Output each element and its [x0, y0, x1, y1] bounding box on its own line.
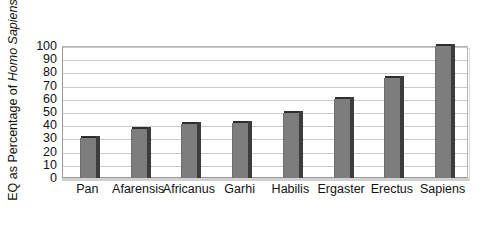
bar-top-face	[182, 122, 197, 124]
y-tick-label: 0	[27, 172, 57, 184]
bar	[232, 123, 248, 178]
x-tick-label: Erectus	[371, 182, 413, 197]
y-tick-label: 90	[27, 53, 57, 65]
y-axis-title-italic: Homo Sapiens	[6, 0, 20, 81]
x-tick-label: Habilis	[272, 182, 310, 197]
x-tick-label: Ergaster	[318, 182, 365, 197]
bar	[334, 99, 350, 178]
y-tick-label: 70	[27, 80, 57, 92]
bar	[80, 138, 96, 178]
bar-side-face	[400, 76, 404, 178]
x-tick-label: Garhi	[224, 182, 255, 197]
bar-top-face	[132, 127, 147, 129]
y-tick-label: 80	[27, 66, 57, 78]
x-tick-label: Afarensis	[112, 182, 164, 197]
y-axis-tick-labels: 1009080706050403020100	[26, 40, 60, 184]
bar-top-face	[233, 121, 248, 123]
bar-side-face	[350, 97, 354, 178]
bar	[131, 129, 147, 178]
bar	[181, 124, 197, 178]
y-axis-title: EQ as Percentage of Homo Sapiens	[0, 0, 26, 200]
y-tick-label: 10	[27, 159, 57, 171]
y-tick-label: 100	[27, 40, 57, 52]
y-axis-title-plain: EQ as Percentage of	[6, 81, 20, 201]
y-tick-label: 60	[27, 93, 57, 105]
bar-side-face	[299, 111, 303, 178]
x-tick-label: Sapiens	[420, 182, 465, 197]
bar	[435, 46, 451, 178]
bar	[384, 78, 400, 178]
bar-top-face	[284, 111, 299, 113]
bar-side-face	[248, 121, 252, 178]
x-tick-label: Pan	[76, 182, 98, 197]
bar-top-face	[436, 44, 451, 46]
chart-figure: EQ as Percentage of Homo Sapiens 1009080…	[0, 0, 485, 229]
bar-side-face	[197, 122, 201, 178]
bar-top-face	[81, 136, 96, 138]
bar-side-face	[451, 44, 455, 178]
plot-floor	[62, 178, 470, 181]
bar-top-face	[335, 97, 350, 99]
bars-layer	[62, 46, 468, 178]
bar-side-face	[96, 136, 100, 178]
bar	[283, 113, 299, 178]
x-tick-label: Africanus	[163, 182, 215, 197]
y-axis-title-text: EQ as Percentage of Homo Sapiens	[6, 0, 20, 201]
y-tick-label: 20	[27, 146, 57, 158]
y-tick-label: 40	[27, 119, 57, 131]
bar-side-face	[147, 127, 151, 178]
bar-top-face	[385, 76, 400, 78]
y-tick-label: 30	[27, 132, 57, 144]
x-axis-tick-labels: PanAfarensisAfricanusGarhiHabilisErgaste…	[62, 182, 468, 202]
y-tick-label: 50	[27, 106, 57, 118]
